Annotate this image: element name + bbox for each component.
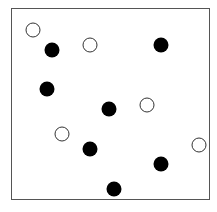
filled-circle [154, 157, 169, 172]
dot-field [0, 0, 217, 212]
filled-circle [154, 38, 169, 53]
hollow-circle [26, 23, 40, 37]
hollow-circle [83, 38, 97, 52]
filled-circle [107, 182, 122, 197]
filled-circle [102, 102, 117, 117]
hollow-circle [55, 127, 69, 141]
filled-circle [83, 142, 98, 157]
hollow-circle [140, 98, 154, 112]
filled-circle [45, 43, 60, 58]
hollow-circle [192, 138, 206, 152]
filled-circle [40, 82, 55, 97]
